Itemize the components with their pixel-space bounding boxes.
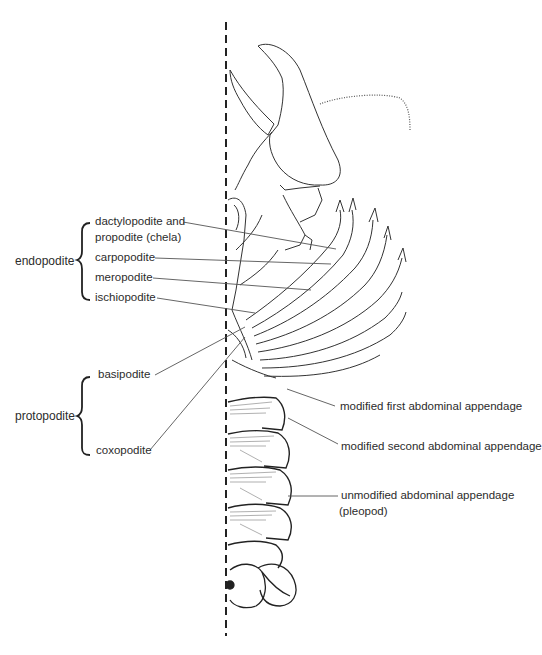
label-line-1: unmodified abdominal appendage: [341, 489, 514, 502]
label-line-1: dactylopodite and: [95, 215, 185, 228]
abdomen-drawing: [228, 397, 291, 568]
chela-drawing: [230, 44, 340, 250]
label-unmodified-abdominal-appendage: unmodified abdominal appendage (pleopod): [341, 489, 514, 518]
leader-lines: [150, 222, 338, 496]
label-ischiopodite: ischiopodite: [95, 291, 156, 304]
label-basipodite: basipodite: [98, 368, 150, 381]
antenna: [320, 95, 410, 130]
label-line-2: (pleopod): [339, 505, 514, 518]
group-label-protopodite: protopodite: [15, 409, 75, 423]
group-label-endopodite: endopodite: [15, 254, 74, 268]
label-coxopodite: coxopodite: [96, 444, 152, 457]
label-line-2: propodite (chela): [95, 231, 185, 244]
thorax-drawing: [228, 198, 278, 378]
tail-fan-drawing: [226, 564, 296, 607]
label-carpopodite: carpopodite: [95, 251, 155, 264]
protopodite-brace: [77, 377, 90, 455]
label-dactylopodite-propodite: dactylopodite and propodite (chela): [95, 215, 185, 244]
label-modified-second-abdominal-appendage: modified second abdominal appendage: [341, 440, 542, 453]
label-meropodite: meropodite: [95, 271, 153, 284]
label-modified-first-abdominal-appendage: modified first abdominal appendage: [340, 400, 522, 413]
endopodite-brace: [77, 223, 90, 300]
